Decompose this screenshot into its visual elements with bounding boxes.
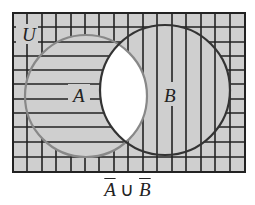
caption-union: ∪: [120, 179, 134, 200]
caption-b: B: [139, 179, 151, 200]
universe-label: U: [22, 24, 37, 45]
set-b-label: B: [164, 85, 176, 106]
venn-diagram: U A B: [0, 0, 255, 205]
caption-a: A: [104, 179, 115, 200]
caption: A ∪ B: [0, 178, 255, 201]
set-a-label: A: [71, 85, 85, 106]
